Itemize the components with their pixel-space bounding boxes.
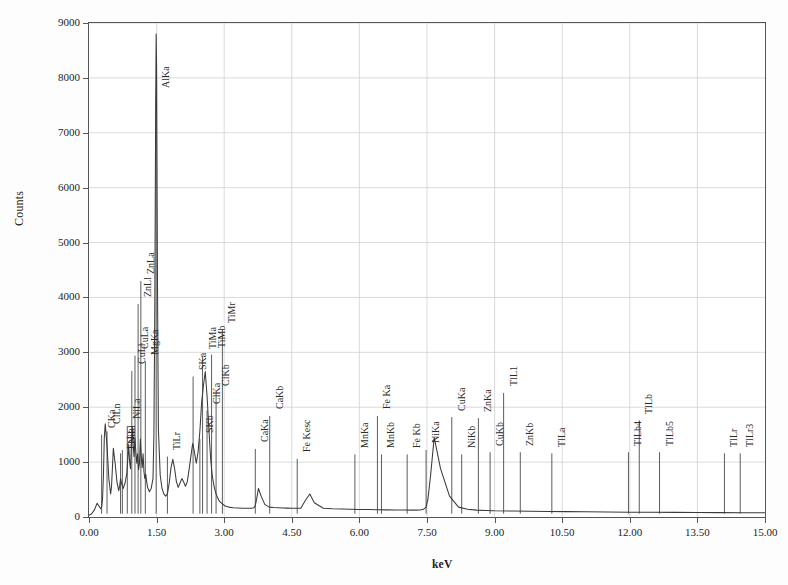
x-tick-mark xyxy=(630,517,631,523)
peak-label: ZnLa xyxy=(145,253,156,275)
x-tick-mark xyxy=(157,517,158,523)
spectrum-figure: 0100020003000400050006000700080009000 0.… xyxy=(0,0,788,585)
peak-label: TiMr xyxy=(226,302,237,323)
peak-label: ZnKb xyxy=(524,422,535,445)
peak-label: TlLr3 xyxy=(744,423,755,446)
peak-label: Fe Kesc xyxy=(301,420,312,453)
peak-label: CaKa xyxy=(259,420,270,443)
peak-label: CuKb xyxy=(494,422,505,446)
peak-label: MnKb xyxy=(385,422,396,448)
peak-label: ZnKa xyxy=(482,389,493,412)
y-tick-mark xyxy=(83,352,89,353)
y-tick-mark xyxy=(83,188,89,189)
y-tick-mark xyxy=(83,23,89,24)
x-tick-label: 10.50 xyxy=(535,526,589,538)
x-tick-label: 7.50 xyxy=(400,526,454,538)
peak-label: TiLr xyxy=(171,432,182,450)
x-tick-mark xyxy=(562,517,563,523)
y-tick-mark xyxy=(83,297,89,298)
x-tick-mark xyxy=(765,517,766,523)
peak-label: MgKa xyxy=(149,329,160,355)
x-tick-label: 15.00 xyxy=(738,526,788,538)
x-tick-mark xyxy=(89,517,90,523)
x-tick-label: 6.00 xyxy=(332,526,386,538)
peak-label: CaKb xyxy=(274,386,285,409)
peak-label: Fe Ka xyxy=(381,385,392,409)
x-tick-label: 3.00 xyxy=(197,526,251,538)
y-tick-label: 2000 xyxy=(34,400,80,412)
peak-label: ZnLl xyxy=(142,277,153,297)
peak-label: ClKb xyxy=(220,365,231,387)
y-tick-label: 7000 xyxy=(34,126,80,138)
peak-label: NiKb xyxy=(466,426,477,448)
peak-label: Fe Kb xyxy=(411,423,422,448)
y-tick-label: 1000 xyxy=(34,455,80,467)
peak-tick-marks xyxy=(102,94,741,513)
y-tick-label: 4000 xyxy=(34,290,80,302)
peak-label: TlLb xyxy=(643,394,654,414)
x-tick-label: 13.50 xyxy=(670,526,724,538)
peak-label: CuKa xyxy=(456,387,467,410)
peak-label: ClLn xyxy=(111,403,122,424)
x-tick-mark xyxy=(224,517,225,523)
peak-label: TlL1 xyxy=(508,366,519,386)
y-tick-mark xyxy=(83,243,89,244)
x-tick-mark xyxy=(292,517,293,523)
y-tick-label: 0 xyxy=(34,510,80,522)
peak-label: NiLl xyxy=(126,425,137,444)
peak-label: TlLr xyxy=(728,428,739,446)
x-tick-label: 9.00 xyxy=(468,526,522,538)
y-tick-label: 9000 xyxy=(34,16,80,28)
x-tick-label: 0.00 xyxy=(62,526,116,538)
peak-label: SKb xyxy=(204,415,215,433)
y-tick-mark xyxy=(83,78,89,79)
peak-label: AlKa xyxy=(160,66,171,88)
y-tick-mark xyxy=(83,462,89,463)
y-tick-mark xyxy=(83,133,89,134)
y-tick-label: 8000 xyxy=(34,71,80,83)
peak-label: TlLb4 xyxy=(632,421,643,446)
x-tick-mark xyxy=(359,517,360,523)
y-tick-label: 3000 xyxy=(34,345,80,357)
peak-label: NiKa xyxy=(430,422,441,444)
peak-label: MnKa xyxy=(359,422,370,448)
y-tick-mark xyxy=(83,407,89,408)
peak-label: SKa xyxy=(197,353,208,370)
x-tick-mark xyxy=(495,517,496,523)
peak-label: TlLa xyxy=(556,427,567,446)
y-tick-label: 5000 xyxy=(34,236,80,248)
x-tick-label: 4.50 xyxy=(265,526,319,538)
x-tick-label: 1.50 xyxy=(130,526,184,538)
peak-label: TiMb xyxy=(216,326,227,348)
peak-label: TlLb5 xyxy=(664,421,675,446)
x-tick-label: 12.00 xyxy=(603,526,657,538)
y-tick-label: 6000 xyxy=(34,181,80,193)
y-axis-title: Counts xyxy=(12,191,27,226)
x-axis-title: keV xyxy=(432,558,452,570)
peak-label: NiLa xyxy=(131,399,142,420)
x-tick-mark xyxy=(697,517,698,523)
x-tick-mark xyxy=(427,517,428,523)
